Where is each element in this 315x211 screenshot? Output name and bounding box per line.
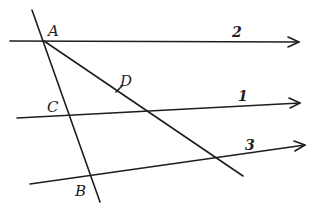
- geometry-diagram: A C B D 2 1 3: [0, 0, 315, 211]
- ray-3: [30, 141, 305, 184]
- point-label-a: A: [46, 22, 59, 40]
- ray-2-line: [10, 41, 299, 42]
- ray-3-line: [30, 145, 305, 184]
- ray-1: [17, 98, 300, 118]
- segment-ad: [44, 41, 243, 176]
- ray-label-2: 2: [231, 24, 242, 40]
- segment-ab: [32, 10, 100, 202]
- point-label-d: D: [119, 72, 132, 90]
- point-label-b: B: [74, 182, 86, 200]
- ray-label-1: 1: [238, 88, 248, 104]
- ray-1-line: [17, 103, 300, 118]
- ray-label-3: 3: [245, 137, 255, 153]
- point-label-c: C: [47, 98, 59, 116]
